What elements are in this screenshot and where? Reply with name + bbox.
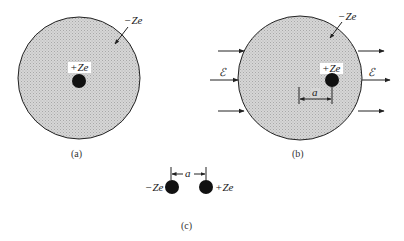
caption-c: (c) (181, 220, 192, 232)
field-label-right: ℰ (368, 66, 376, 78)
caption-a: (a) (71, 148, 82, 160)
dipole-diagram: −Ze +Ze (a) −Ze ℰ ℰ +Ze a (b) (0, 0, 404, 241)
separation-label: a (185, 167, 191, 179)
nucleus-charge-label: +Ze (70, 61, 89, 73)
field-label-left: ℰ (219, 66, 227, 78)
panel-c: a −Ze +Ze (c) (145, 167, 234, 232)
positive-charge (199, 180, 213, 194)
negative-charge (165, 180, 179, 194)
panel-b: −Ze ℰ ℰ +Ze a (b) (210, 10, 390, 160)
electron-cloud (238, 16, 362, 140)
panel-a: −Ze +Ze (a) (18, 14, 143, 160)
nucleus (325, 73, 339, 87)
positive-charge-label: +Ze (215, 181, 234, 193)
cloud-charge-label: −Ze (124, 14, 143, 26)
negative-charge-label: −Ze (145, 181, 164, 193)
nucleus (72, 74, 86, 88)
nucleus-charge-label: +Ze (322, 62, 341, 74)
caption-b: (b) (292, 148, 304, 160)
cloud-charge-label: −Ze (338, 10, 357, 22)
displacement-label: a (312, 86, 318, 98)
